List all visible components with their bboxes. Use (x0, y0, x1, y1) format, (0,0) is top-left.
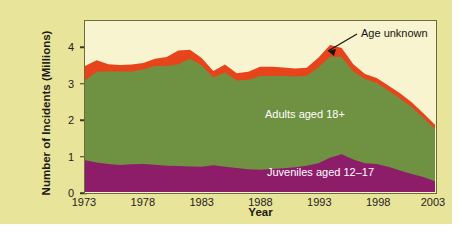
x-axis-label: Year (84, 206, 437, 218)
y-tick-label-3: 3 (52, 78, 74, 90)
y-axis-label: Number of Incidents (Millions) (40, 23, 52, 203)
series-label-adults: Adults aged 18+ (265, 108, 345, 120)
stacked-area-chart (85, 21, 435, 192)
age-unknown-leader-line (328, 34, 357, 51)
y-tick-label-4: 4 (52, 41, 74, 53)
annotation-age-unknown: Age unknown (361, 27, 428, 39)
y-tick-label-2: 2 (52, 114, 74, 126)
chart-figure: Number of Incidents (Millions) 0 1 2 3 4… (0, 0, 452, 224)
plot-area: Adults aged 18+ Juveniles aged 12–17 Age… (84, 20, 437, 194)
y-tick-label-1: 1 (52, 151, 74, 163)
series-label-juveniles: Juveniles aged 12–17 (267, 166, 374, 178)
